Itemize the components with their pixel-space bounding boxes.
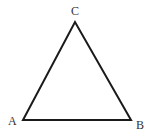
vertex-label-b: B bbox=[136, 118, 144, 132]
triangle-abc bbox=[23, 22, 131, 120]
vertex-label-a: A bbox=[8, 114, 17, 128]
triangle-diagram: C A B bbox=[0, 0, 155, 139]
vertex-label-c: C bbox=[71, 4, 79, 18]
